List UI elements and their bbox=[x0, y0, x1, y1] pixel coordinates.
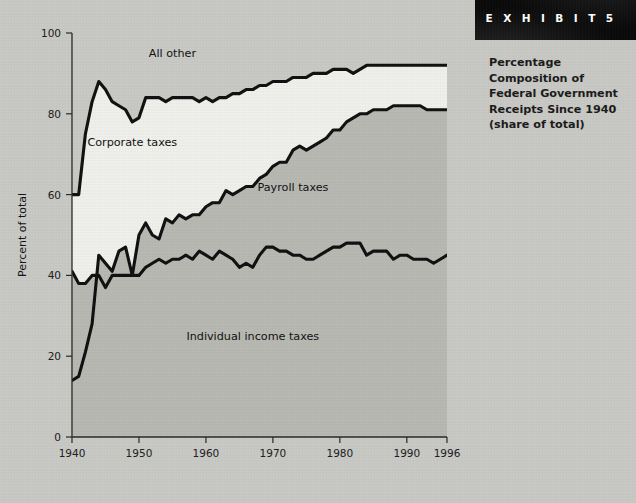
series-annotation-label: Individual income taxes bbox=[186, 330, 319, 343]
receipts-area-chart: 020406080100 194019501960197019801990199… bbox=[0, 0, 470, 503]
y-tick-label: 60 bbox=[48, 189, 61, 201]
x-tick-label: 1960 bbox=[193, 447, 220, 459]
caption-line-1: Percentage bbox=[489, 55, 631, 71]
exhibit-page: 020406080100 194019501960197019801990199… bbox=[0, 0, 636, 503]
caption-line-4: Receipts Since 1940 bbox=[489, 102, 631, 118]
series-annotation-label: Corporate taxes bbox=[87, 136, 177, 149]
x-tick-label: 1980 bbox=[326, 447, 353, 459]
y-tick-label: 40 bbox=[48, 269, 61, 281]
caption-line-3: Federal Government bbox=[489, 86, 631, 102]
data-bands bbox=[72, 65, 447, 437]
y-tick-label: 20 bbox=[48, 350, 61, 362]
x-tick-label: 1940 bbox=[59, 447, 86, 459]
x-tick-label: 1950 bbox=[126, 447, 153, 459]
y-tick-label: 80 bbox=[48, 108, 61, 120]
y-tick-label: 0 bbox=[54, 431, 61, 443]
series-annotation-label: All other bbox=[149, 47, 197, 60]
chart-container: 020406080100 194019501960197019801990199… bbox=[0, 0, 470, 503]
x-axis-ticks: 1940195019601970198019901996 bbox=[59, 437, 461, 459]
exhibit-banner-label: E X H I B I T 5 bbox=[475, 12, 627, 24]
exhibit-banner: E X H I B I T 5 bbox=[475, 0, 636, 40]
x-tick-label: 1970 bbox=[260, 447, 287, 459]
y-axis-title: Percent of total bbox=[16, 193, 29, 277]
x-tick-label: 1990 bbox=[393, 447, 420, 459]
series-annotation-label: Payroll taxes bbox=[258, 181, 329, 194]
y-tick-label: 100 bbox=[41, 27, 61, 39]
exhibit-caption: Percentage Composition of Federal Govern… bbox=[489, 55, 631, 133]
x-tick-label: 1996 bbox=[434, 447, 461, 459]
caption-line-5: (share of total) bbox=[489, 117, 631, 133]
caption-line-2: Composition of bbox=[489, 71, 631, 87]
y-axis-ticks: 020406080100 bbox=[41, 27, 72, 443]
